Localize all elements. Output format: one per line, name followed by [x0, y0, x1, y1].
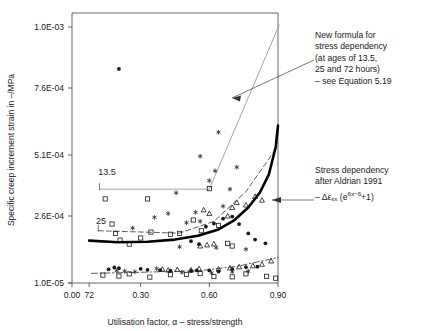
x-axis-tick-group: 0.000.300.600.9072: [64, 283, 287, 300]
formula-mid: (e: [337, 192, 347, 202]
new-formula-line-3: (at ages of 13.5,: [315, 53, 419, 64]
data-point-measurements-open-square: [264, 274, 268, 278]
figure-container: Specific creep increment strain in –/MPa…: [0, 0, 424, 331]
data-point-measurements-open-triangle: [201, 207, 206, 212]
new-formula-arrowhead: [232, 96, 241, 102]
new-formula-line-1: New formula for: [315, 30, 419, 41]
y-tick-label-0: 1.0E-03: [34, 22, 64, 32]
data-point-measurements-asterisk: [177, 244, 181, 249]
data-point-measurements-open-square: [230, 275, 234, 279]
data-point-measurements-asterisk: [246, 269, 250, 274]
y-axis-tick-group: 1.0E-037.6E-045.1E-042.6E-041.0E-05: [34, 22, 278, 288]
formula-superscript: 6x−6: [347, 190, 361, 197]
data-point-measurements-open-square: [148, 275, 152, 279]
aldrian-line-1: Stress dependency: [315, 165, 419, 176]
data-point-measurements-asterisk: [198, 154, 202, 159]
data-point-measurements-open-triangle: [207, 211, 212, 216]
data-point-measurements-open-triangle: [175, 267, 180, 272]
inline-label-0: 13.5: [98, 167, 116, 177]
data-point-measurements-filled-circle: [264, 241, 268, 245]
data-point-measurements-asterisk: [180, 270, 184, 275]
data-point-measurements-open-square: [191, 218, 195, 222]
x-tick-label-1: 0.30: [132, 290, 149, 300]
data-point-measurements-filled-circle: [230, 215, 234, 219]
data-point-measurements-asterisk: [174, 190, 178, 195]
new-formula-line-4: 25 and 72 hours): [315, 64, 419, 75]
aldrian-line-2: after Aldrian 1991: [315, 176, 419, 187]
formula-prefix: – Δε: [315, 192, 331, 202]
data-point-measurements-open-triangle: [243, 202, 248, 207]
data-point-measurements-asterisk: [152, 215, 156, 220]
data-point-measurements-asterisk: [244, 247, 248, 252]
data-point-measurements-filled-circle: [237, 222, 241, 226]
data-point-measurements-asterisk: [228, 187, 232, 192]
marker-layer: [101, 67, 278, 280]
data-point-measurements-asterisk: [216, 130, 220, 135]
data-point-measurements-open-square: [199, 229, 203, 233]
new-formula-annotation: New formula for stress dependency (at ag…: [315, 30, 419, 87]
aldrian-arrowhead: [272, 197, 281, 203]
data-point-measurements-open-square: [110, 222, 114, 226]
data-point-measurements-open-square: [244, 272, 248, 276]
data-point-measurements-open-square: [139, 236, 143, 240]
data-point-measurements-open-square: [168, 273, 172, 277]
data-point-measurements-filled-circle: [246, 232, 250, 236]
data-point-measurements-asterisk: [198, 219, 202, 224]
series-line-new-formula-72h: [91, 258, 278, 274]
data-point-measurements-filled-circle: [221, 217, 225, 221]
formula-suffix: +1): [361, 192, 374, 202]
data-point-measurements-asterisk: [133, 269, 137, 274]
data-point-measurements-asterisk: [131, 226, 135, 231]
data-point-measurements-open-square: [230, 244, 234, 248]
x-tick-label-3: 0.90: [270, 290, 287, 300]
x-tick-label-2: 0.60: [201, 290, 218, 300]
data-point-measurements-open-square: [113, 231, 117, 235]
data-point-measurements-open-triangle: [225, 213, 230, 218]
data-point-measurements-open-square: [216, 223, 220, 227]
data-point-measurements-filled-circle: [212, 222, 216, 226]
annotation-leaders: [232, 60, 314, 203]
data-point-measurements-asterisk: [184, 220, 188, 225]
series-line-new-formula-25h: [98, 152, 273, 233]
data-point-measurements-open-triangle: [259, 262, 264, 267]
series-line-new-formula-13.5h: [99, 25, 279, 189]
data-point-measurements-open-triangle: [205, 242, 210, 247]
x-extra-tick-label-0: 72: [84, 290, 94, 300]
series-line-aldrian-1991-stress-dependency: [89, 126, 278, 243]
data-point-measurements-filled-circle: [146, 268, 150, 272]
data-point-measurements-filled-circle: [217, 270, 221, 274]
y-axis-title: Specific creep increment strain in –/MPa: [6, 74, 16, 226]
new-formula-line-5: – see Equation 5.19: [315, 76, 419, 87]
data-point-measurements-filled-circle: [256, 265, 260, 269]
data-point-measurements-asterisk: [207, 178, 211, 183]
data-point-measurements-open-square: [117, 274, 121, 278]
y-tick-label-4: 1.0E-05: [34, 278, 64, 288]
data-point-measurements-open-triangle: [211, 241, 216, 246]
data-point-measurements-asterisk: [194, 210, 198, 215]
aldrian-annotation: Stress dependency after Aldrian 1991 – Δ…: [315, 165, 419, 204]
aldrian-formula: – Δεxx (e6x−6+1): [315, 188, 419, 204]
data-point-measurements-open-triangle: [259, 198, 264, 203]
data-point-measurements-asterisk: [235, 165, 239, 170]
data-point-measurements-asterisk: [221, 204, 225, 209]
data-point-measurements-asterisk: [166, 211, 170, 216]
x-tick-label-0: 0.00: [64, 290, 81, 300]
data-point-measurements-open-triangle: [250, 263, 255, 268]
data-point-measurements-open-triangle: [234, 200, 239, 205]
series-layer: [89, 25, 279, 273]
new-formula-leader: [232, 60, 314, 98]
data-point-measurements-open-square: [103, 197, 107, 201]
x-axis-title: Utilisation factor, α – stress/strength: [108, 317, 243, 327]
data-point-measurements-filled-circle: [253, 238, 257, 242]
y-tick-label-3: 2.6E-04: [34, 211, 64, 221]
data-point-measurements-open-square: [274, 276, 278, 280]
data-point-measurements-asterisk: [155, 266, 159, 271]
y-tick-label-1: 7.6E-04: [34, 83, 64, 93]
data-point-measurements-filled-circle: [139, 267, 143, 271]
data-point-measurements-filled-circle: [204, 225, 208, 229]
data-point-measurements-open-square: [101, 273, 105, 277]
data-point-measurements-filled-circle: [112, 266, 116, 270]
new-formula-line-2: stress dependency: [315, 41, 419, 52]
y-tick-label-2: 5.1E-04: [34, 150, 64, 160]
inline-label-1: 25: [96, 216, 106, 226]
